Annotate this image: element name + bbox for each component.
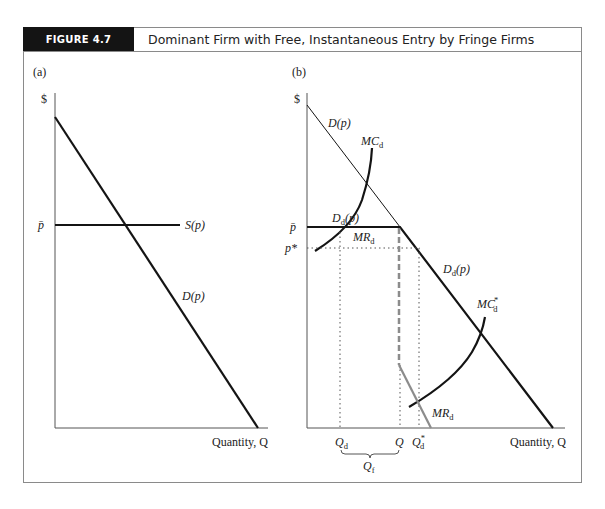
panel-b-pstar-label: p* [284, 241, 297, 255]
panel-b-qd-label: Qd [335, 435, 349, 451]
panel-b-market-demand-label: D(p) [327, 116, 351, 130]
panel-b-label: (b) [292, 65, 306, 79]
diagram-canvas: (a) $ p̄ S(p) D(p) Quantity, Q (b) $ [0, 0, 605, 509]
panel-b-qf-brace [341, 450, 399, 458]
panel-a-supply-label: S(p) [185, 218, 205, 232]
panel-b-y-axis-label: $ [294, 92, 300, 106]
panel-a-x-axis-label: Quantity, Q [212, 435, 268, 449]
panel-a-pbar-label: p̄ [37, 218, 44, 232]
panel-b-mc-label: MCd [360, 134, 384, 150]
panel-b-qf-label: Qf [363, 459, 375, 475]
panel-b-residual-demand-curve [307, 227, 553, 428]
panel-b-qdstar-label: Q*d [412, 433, 425, 451]
panel-b: (b) $ p̄ p* D(p) MCd Dd(p) MRd Dd(p) MC*… [284, 65, 566, 475]
panel-a-demand-label: D(p) [181, 289, 205, 303]
panel-b-residual-demand-label-lower: Dd(p) [442, 262, 470, 278]
panel-b-x-axis-label: Quantity, Q [510, 435, 566, 449]
panel-b-mc-star-curve [409, 317, 485, 407]
panel-a: (a) $ p̄ S(p) D(p) Quantity, Q [33, 65, 268, 449]
panel-a-y-axis-label: $ [41, 92, 47, 106]
panel-b-residual-demand-label-upper: Dd(p) [331, 211, 359, 227]
panel-a-label: (a) [33, 65, 46, 79]
panel-b-pbar-label: p̄ [289, 220, 296, 234]
panel-b-mr-upper-label: MRd [352, 230, 375, 246]
panel-b-market-demand-curve [307, 105, 400, 227]
panel-b-q-label: Q [395, 435, 404, 449]
panel-b-mr-lower-label: MRd [431, 406, 454, 422]
panel-a-demand-curve [55, 117, 258, 428]
panel-b-mc-star-label: MC*d [476, 295, 498, 314]
